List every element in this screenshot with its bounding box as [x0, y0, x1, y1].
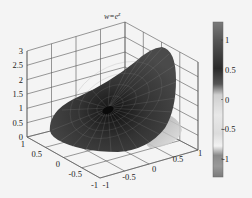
svg-text:0: 0: [56, 159, 60, 169]
surface: [50, 46, 182, 155]
surface-main: [50, 47, 176, 152]
svg-text:0.5: 0.5: [31, 149, 42, 159]
svg-text:-1: -1: [91, 180, 98, 190]
svg-text:-0.5: -0.5: [69, 169, 82, 179]
svg-text:-0.5: -0.5: [122, 172, 135, 182]
svg-text:1: 1: [225, 35, 229, 45]
svg-text:2: 2: [19, 75, 23, 85]
svg-text:1: 1: [19, 103, 23, 113]
x-axis-ticks: -1 -0.5 0 0.5 1: [102, 148, 202, 190]
svg-text:3: 3: [19, 46, 23, 56]
svg-text:1: 1: [21, 139, 25, 149]
z-axis-ticks: 0 0.5 1 1.5 2 2.5 3: [12, 46, 23, 142]
svg-text:0: 0: [152, 164, 156, 174]
chart-title: w=ez: [104, 11, 121, 21]
svg-text:1.5: 1.5: [12, 89, 23, 99]
svg-text:-0.5: -0.5: [222, 124, 235, 134]
svg-text:0.5: 0.5: [173, 154, 184, 164]
svg-text:0.5: 0.5: [225, 65, 236, 75]
svg-text:1: 1: [198, 148, 202, 158]
svg-text:-1: -1: [102, 180, 109, 190]
colorbar-ticks: 1 0.5 0 -0.5 -1: [222, 35, 236, 164]
colorbar: 1 0.5 0 -0.5 -1: [213, 22, 236, 177]
svg-text:0.5: 0.5: [12, 118, 23, 128]
svg-text:0: 0: [225, 95, 229, 105]
surface-plot: w=ez 0 0.5 1 1.5 2 2.5 3 1 0.5 0 -0.5 -1…: [0, 0, 252, 198]
svg-text:2.5: 2.5: [12, 60, 23, 70]
svg-text:-1: -1: [222, 154, 229, 164]
